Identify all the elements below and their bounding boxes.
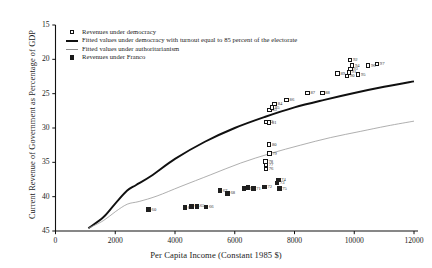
open-square-icon <box>64 30 80 34</box>
filled-square-icon <box>183 205 188 210</box>
legend-item-fitted-democracy: Fitted values under democracy with turno… <box>64 36 297 44</box>
x-tick-label: 10000 <box>334 236 374 245</box>
open-square-icon <box>356 72 361 77</box>
data-point-label: 66 <box>209 204 214 209</box>
filled-square-icon <box>64 55 80 59</box>
data-point-label: 92 <box>353 57 358 62</box>
open-square-icon <box>348 58 353 63</box>
legend-label: Revenues under Franco <box>80 53 145 61</box>
legend-item-franco: Revenues under Franco <box>64 53 297 61</box>
open-square-icon <box>272 102 277 107</box>
filled-square-icon <box>246 185 251 190</box>
filled-square-icon <box>146 207 151 212</box>
y-tick-label: 25 <box>22 89 50 98</box>
filled-square-icon <box>262 185 267 190</box>
figure-chart: Current Revenue of Government as Percent… <box>0 0 432 268</box>
curve-authoritarianism <box>88 121 414 228</box>
data-point-label: 72 <box>268 184 273 189</box>
open-square-icon <box>375 62 380 67</box>
filled-square-icon <box>225 191 230 196</box>
open-square-icon <box>267 120 272 125</box>
open-square-icon <box>267 142 272 147</box>
legend-label: Revenues under democracy <box>80 28 156 36</box>
open-square-icon <box>267 151 272 156</box>
legend-label: Fitted values under authoritarianism <box>80 45 179 53</box>
open-square-icon <box>320 91 325 96</box>
legend-item-democracy: Revenues under democracy <box>64 28 297 36</box>
filled-square-icon <box>189 204 194 209</box>
filled-square-icon <box>251 186 256 191</box>
y-tick-label: 35 <box>22 157 50 166</box>
data-point-label: 84 <box>278 101 283 106</box>
y-tick-label: 15 <box>22 20 50 29</box>
open-square-icon <box>350 63 355 68</box>
data-point-label: 87 <box>311 90 316 95</box>
data-point-label: 88 <box>325 90 330 95</box>
open-square-icon <box>305 91 310 96</box>
data-point-label: 78 <box>268 159 273 164</box>
curve-democracy <box>88 81 414 228</box>
data-point-label: 81 <box>272 120 277 125</box>
legend: Revenues under democracy Fitted values u… <box>64 28 297 62</box>
filled-square-icon <box>276 178 281 183</box>
data-point-label: 80 <box>272 142 277 147</box>
data-point-label: 71 <box>256 186 261 191</box>
open-square-icon <box>284 98 289 103</box>
x-tick-label: 8000 <box>275 236 315 245</box>
open-square-icon <box>335 71 340 76</box>
y-tick-label: 40 <box>22 192 50 201</box>
thin-line-icon <box>64 49 80 50</box>
data-point-label: 79 <box>272 151 277 156</box>
filled-square-icon <box>277 186 282 191</box>
legend-label: Fitted values under democracy with turno… <box>80 36 297 44</box>
data-point-label: 86 <box>290 97 295 102</box>
x-tick-label: 12000 <box>394 236 432 245</box>
fitted-curves <box>88 81 414 228</box>
x-tick-label: 0 <box>36 236 76 245</box>
y-tick-label: 30 <box>22 123 50 132</box>
data-point-label: 68 <box>230 190 235 195</box>
data-point-label: 97 <box>380 61 385 66</box>
y-tick-label: 45 <box>22 226 50 235</box>
legend-item-fitted-authoritarianism: Fitted values under authoritarianism <box>64 45 297 53</box>
open-square-icon <box>366 63 371 68</box>
data-point-label: 95 <box>361 72 366 77</box>
data-point-label: 74 <box>281 177 286 182</box>
filled-square-icon <box>195 204 200 209</box>
x-tick-label: 6000 <box>215 236 255 245</box>
data-point-label: 60 <box>152 207 157 212</box>
thick-line-icon <box>64 40 80 42</box>
x-tick-label: 4000 <box>155 236 195 245</box>
data-point-label: 75 <box>282 186 287 191</box>
data-point-label: 94 <box>355 63 360 68</box>
x-tick-label: 2000 <box>95 236 135 245</box>
filled-square-icon <box>204 205 209 210</box>
y-tick-label: 20 <box>22 54 50 63</box>
open-square-icon <box>263 159 268 164</box>
filled-square-icon <box>218 188 223 193</box>
open-square-icon <box>264 167 269 172</box>
